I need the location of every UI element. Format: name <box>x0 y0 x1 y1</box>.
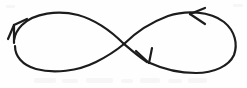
arrow-upper-right <box>190 8 205 24</box>
lemniscate-right-lobe-upper-path <box>124 12 236 73</box>
lemniscate-svg: Infinity symbol with direction arrows Ha… <box>0 0 247 88</box>
infinity-diagram-canvas: Infinity symbol with direction arrows Ha… <box>0 0 247 88</box>
lemniscate-left-lobe-upper-path <box>14 13 124 44</box>
lemniscate-left-lobe-lower-path <box>15 44 124 71</box>
arrowhead-down-right-barb-right <box>149 48 152 63</box>
arrowhead-left-barb-lower <box>190 14 205 24</box>
arrowhead-down-right-barb-left <box>136 51 149 63</box>
